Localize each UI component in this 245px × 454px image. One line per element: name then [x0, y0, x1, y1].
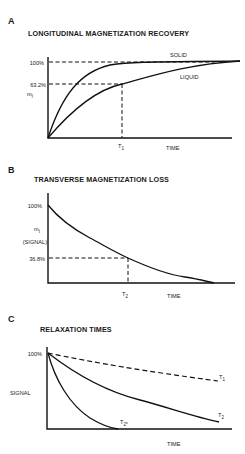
x-marker-t1: T1 [118, 143, 124, 150]
chart-title: TRANSVERSE MAGNETIZATION LOSS [34, 175, 169, 184]
y-axis-label: mt [34, 226, 41, 234]
curve-t1 [48, 353, 218, 381]
curve-t2 [48, 353, 219, 422]
y-tick-100: 100% [30, 60, 44, 66]
x-marker-t2: T2 [122, 291, 128, 299]
y-tick-63: 63.2% [30, 82, 46, 88]
curve-label-t1: T1 [219, 374, 225, 382]
curve-mt [48, 205, 214, 283]
curve-solid [48, 61, 240, 138]
panel-b: B TRANSVERSE MAGNETIZATION LOSS 100% mt … [0, 150, 245, 300]
chart-longitudinal-recovery: A LONGITUDINAL MAGNETIZATION RECOVERY 10… [0, 0, 245, 150]
y-tick-100: 100% [28, 203, 42, 209]
x-axis-label: TIME [167, 441, 181, 447]
curve-label-t2: T2 [218, 412, 224, 420]
y-tick-36: 36.8% [29, 256, 45, 262]
panel-letter: B [8, 165, 15, 175]
y-axis-label-signal: (SIGNAL) [23, 239, 47, 245]
curve-label-t2-star: T2* [120, 419, 128, 427]
panel-letter: C [8, 314, 15, 324]
curve-liquid [48, 61, 240, 138]
curve-label-solid: SOLID [170, 52, 187, 58]
axes [48, 57, 232, 138]
chart-relaxation-times: C RELAXATION TIMES 100% SIGNAL T1 T2 T2*… [0, 300, 245, 454]
y-axis-label: ml [27, 91, 33, 99]
panel-c: C RELAXATION TIMES 100% SIGNAL T1 T2 T2*… [0, 300, 245, 454]
x-axis-label: TIME [167, 293, 181, 299]
curve-label-liquid: LIQUID [180, 74, 199, 80]
chart-title: RELAXATION TIMES [40, 325, 112, 334]
chart-transverse-loss: B TRANSVERSE MAGNETIZATION LOSS 100% mt … [0, 150, 245, 300]
panel-letter: A [8, 16, 15, 26]
chart-title: LONGITUDINAL MAGNETIZATION RECOVERY [28, 29, 189, 38]
panel-a: A LONGITUDINAL MAGNETIZATION RECOVERY 10… [0, 0, 245, 150]
axes [47, 347, 232, 429]
y-tick-100: 100% [28, 351, 42, 357]
y-axis-label: SIGNAL [10, 390, 31, 396]
axes [48, 193, 235, 283]
